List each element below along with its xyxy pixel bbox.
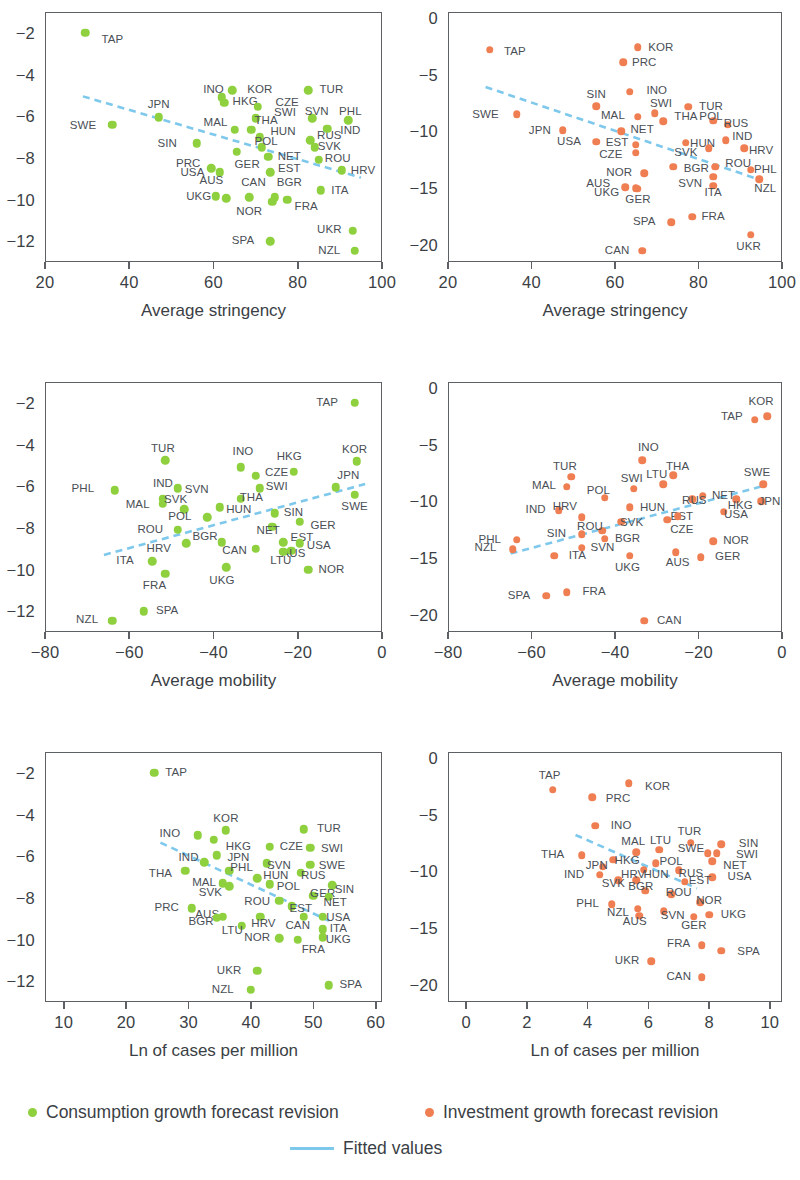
data-point-label: INO: [611, 820, 632, 832]
data-point: [592, 822, 600, 830]
figure-legend: Consumption growth forecast revision Inv…: [0, 1098, 800, 1162]
data-point: [698, 941, 706, 949]
data-point-label: UKG: [721, 909, 746, 921]
y-tick-label: −15: [409, 919, 438, 938]
x-tick-mark: [587, 1002, 589, 1009]
data-point: [718, 947, 726, 955]
data-point-label: NOR: [696, 895, 722, 907]
data-point: [588, 794, 596, 802]
data-point: [708, 857, 716, 865]
y-tick-label: −10: [409, 862, 438, 881]
data-point: [634, 905, 642, 913]
x-tick-label: 2: [522, 1013, 531, 1032]
x-axis-title: Ln of cases per million: [530, 1041, 699, 1061]
consumption-legend-label: Consumption growth forecast revision: [46, 1102, 339, 1123]
x-tick-mark: [769, 1002, 771, 1009]
fitted-legend-label: Fitted values: [343, 1138, 442, 1159]
data-point: [648, 957, 656, 965]
chart-panel-f: 0−5−10−15−200246810Ln of cases per milli…: [0, 0, 800, 1180]
data-point-label: SPA: [737, 946, 759, 958]
figure-panel-grid: −2−4−6−8−10−1220406080100Average stringe…: [0, 0, 800, 1180]
y-tick-label: 0: [429, 748, 438, 767]
legend-item-investment: Investment growth forecast revision: [425, 1102, 718, 1123]
data-point-label: HKG: [615, 855, 640, 867]
x-tick-label: 4: [583, 1013, 592, 1032]
x-tick-label: 0: [462, 1013, 471, 1032]
data-point-label: FRA: [667, 938, 690, 950]
data-point-label: PRC: [606, 793, 631, 805]
data-point-label: ROU: [666, 887, 692, 899]
x-tick-mark: [648, 1002, 650, 1009]
data-point: [698, 973, 706, 981]
data-point: [578, 852, 586, 860]
data-point: [705, 911, 713, 919]
investment-legend-dot: [425, 1108, 434, 1117]
y-tick-label: −5: [419, 805, 438, 824]
data-point-label: JPN: [586, 860, 608, 872]
x-tick-mark: [708, 1002, 710, 1009]
consumption-legend-dot: [28, 1108, 37, 1117]
data-point-label: HUN: [643, 869, 668, 881]
data-point-label: KOR: [645, 781, 670, 793]
fitted-values-line: [0, 0, 800, 1180]
legend-item-fitted: Fitted values: [290, 1138, 442, 1159]
investment-legend-label: Investment growth forecast revision: [443, 1102, 718, 1123]
x-tick-label: 10: [760, 1013, 779, 1032]
y-tick-label: −20: [409, 975, 438, 994]
data-point-label: IND: [564, 870, 584, 882]
fitted-legend-line: [290, 1147, 334, 1150]
data-point: [625, 780, 633, 788]
data-point-label: SWE: [678, 843, 705, 855]
data-point-label: BGR: [628, 881, 653, 893]
data-point: [681, 878, 689, 886]
data-point: [549, 786, 557, 794]
data-point-label: LTU: [650, 835, 671, 847]
data-point-label: GER: [681, 921, 706, 933]
data-point-label: EST: [689, 875, 712, 887]
legend-item-consumption: Consumption growth forecast revision: [28, 1102, 339, 1123]
data-point-label: AUS: [623, 916, 647, 928]
data-point: [704, 849, 712, 857]
data-point: [655, 846, 663, 854]
data-point-label: TAP: [539, 770, 561, 782]
data-point-label: TUR: [677, 826, 701, 838]
data-point-label: CAN: [666, 971, 691, 983]
x-tick-mark: [465, 1002, 467, 1009]
data-point: [713, 849, 721, 857]
data-point-label: PHL: [576, 899, 599, 911]
data-point-label: USA: [728, 871, 752, 883]
data-point-label: THA: [541, 849, 564, 861]
data-point-label: SVK: [602, 878, 625, 890]
x-tick-mark: [526, 1002, 528, 1009]
data-point-label: UKR: [615, 955, 640, 967]
x-tick-label: 8: [704, 1013, 713, 1032]
data-point: [718, 840, 726, 848]
x-tick-label: 6: [644, 1013, 653, 1032]
data-point-label: MAL: [621, 837, 645, 849]
